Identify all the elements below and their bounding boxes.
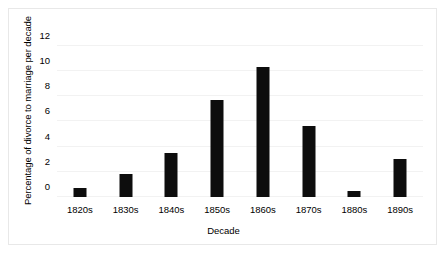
bar-slot: 1880s (332, 33, 378, 197)
x-axis-tick-label: 1830s (113, 204, 139, 215)
x-axis-tick-label: 1890s (387, 204, 413, 215)
x-axis-tick-label: 1850s (204, 204, 230, 215)
bar (73, 188, 86, 197)
bar (394, 159, 407, 197)
y-axis-tick-label: 0 (45, 181, 50, 192)
bar (165, 153, 178, 197)
bar-slot: 1860s (240, 33, 286, 197)
chart-container: Percentage of divorce to marriage per de… (8, 8, 437, 245)
bar (256, 67, 269, 197)
y-axis-tick-label: 4 (45, 130, 50, 141)
y-axis-tick-label: 12 (39, 29, 50, 40)
y-axis-tick-label: 6 (45, 105, 50, 116)
y-axis-tick-label: 10 (39, 54, 50, 65)
bar-slot: 1850s (194, 33, 240, 197)
bar-slot: 1830s (103, 33, 149, 197)
chart-plot-wrapper: Percentage of divorce to marriage per de… (9, 9, 436, 244)
y-axis-tick-label: 2 (45, 155, 50, 166)
x-axis-tick-label: 1870s (296, 204, 322, 215)
bar-slot: 1820s (57, 33, 103, 197)
bar (348, 191, 361, 197)
bar (119, 174, 132, 197)
bar-slot: 1870s (286, 33, 332, 197)
x-axis-title: Decade (9, 225, 438, 236)
bar-slot: 1890s (377, 33, 423, 197)
plot-area: 024681012 1820s1830s1840s1850s1860s1870s… (57, 33, 423, 197)
x-axis-tick-label: 1860s (250, 204, 276, 215)
y-axis-tick-label: 8 (45, 80, 50, 91)
bar (302, 126, 315, 197)
bar (211, 100, 224, 197)
x-axis-tick-label: 1840s (158, 204, 184, 215)
y-axis-title: Percentage of divorce to marriage per de… (22, 11, 33, 211)
x-axis-tick-label: 1880s (341, 204, 367, 215)
bar-slot: 1840s (149, 33, 195, 197)
x-axis-tick-label: 1820s (67, 204, 93, 215)
